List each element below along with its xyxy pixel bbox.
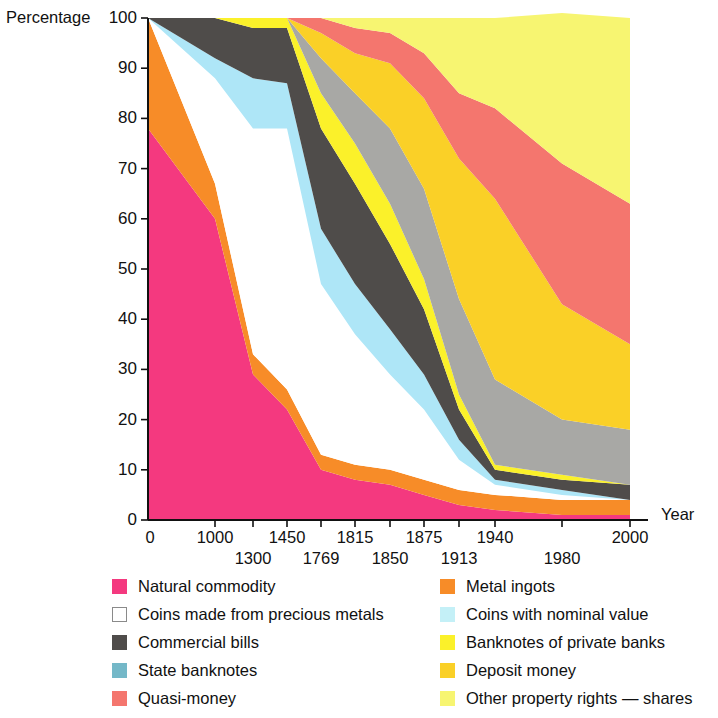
- x-tick-label-1769: 1769: [303, 549, 340, 568]
- plot-svg: [0, 0, 718, 570]
- x-tick-label-1913: 1913: [441, 549, 478, 568]
- x-tick-label-1815: 1815: [337, 528, 374, 547]
- legend-item[interactable]: Commercial bills: [112, 628, 384, 656]
- y-tick-label-20: 20: [97, 410, 137, 430]
- legend-swatch-icon: [112, 635, 127, 650]
- legend-swatch-icon: [112, 663, 127, 678]
- legend-swatch-icon: [440, 607, 455, 622]
- x-tick-label-1850: 1850: [372, 549, 409, 568]
- y-tick-label-10: 10: [97, 460, 137, 480]
- x-tick-label-1980: 1980: [544, 549, 581, 568]
- x-tick-label-2000: 2000: [612, 528, 649, 547]
- chart-plot-area: Percentage Year 1009080706050403020100 1…: [0, 0, 718, 570]
- legend-swatch-icon: [440, 663, 455, 678]
- legend-item[interactable]: Other property rights — shares: [440, 684, 693, 712]
- legend-item-label: Other property rights — shares: [466, 689, 693, 707]
- legend-column-right: Metal ingotsCoins with nominal valueBank…: [440, 572, 693, 712]
- x-tick-label-1300: 1300: [235, 549, 272, 568]
- x-origin-label: 0: [145, 528, 154, 547]
- legend-item-label: Banknotes of private banks: [466, 633, 665, 651]
- legend-swatch-icon: [440, 579, 455, 594]
- legend-item[interactable]: Banknotes of private banks: [440, 628, 693, 656]
- y-tick-label-100: 100: [97, 8, 137, 28]
- legend-item-label: Coins made from precious metals: [138, 605, 384, 623]
- y-tick-label-90: 90: [97, 58, 137, 78]
- legend-item-label: State banknotes: [138, 661, 257, 679]
- legend-item-label: Quasi-money: [138, 689, 236, 707]
- y-tick-label-0: 0: [97, 510, 137, 530]
- y-tick-label-40: 40: [97, 309, 137, 329]
- x-axis-title: Year: [661, 505, 694, 524]
- legend-item-label: Metal ingots: [466, 577, 555, 595]
- y-tick-label-80: 80: [97, 108, 137, 128]
- stacked-area-chart-figure: Percentage Year 1009080706050403020100 1…: [0, 0, 718, 718]
- chart-legend: Natural commodityCoins made from preciou…: [0, 572, 718, 718]
- legend-item[interactable]: State banknotes: [112, 656, 384, 684]
- legend-item[interactable]: Quasi-money: [112, 684, 384, 712]
- x-tick-label-1940: 1940: [477, 528, 514, 547]
- x-tick-label-1000: 1000: [197, 528, 234, 547]
- y-axis-title: Percentage: [6, 8, 90, 27]
- legend-item-label: Commercial bills: [138, 633, 259, 651]
- y-tick-label-60: 60: [97, 209, 137, 229]
- legend-item[interactable]: Metal ingots: [440, 572, 693, 600]
- legend-column-left: Natural commodityCoins made from preciou…: [112, 572, 384, 712]
- legend-item[interactable]: Natural commodity: [112, 572, 384, 600]
- legend-swatch-icon: [440, 691, 455, 706]
- legend-item-label: Coins with nominal value: [466, 605, 649, 623]
- y-tick-label-30: 30: [97, 359, 137, 379]
- y-tick-label-70: 70: [97, 159, 137, 179]
- legend-swatch-icon: [112, 607, 127, 622]
- legend-swatch-icon: [112, 579, 127, 594]
- legend-item-label: Natural commodity: [138, 577, 276, 595]
- legend-item[interactable]: Deposit money: [440, 656, 693, 684]
- x-tick-label-1875: 1875: [406, 528, 443, 547]
- x-tick-label-1450: 1450: [269, 528, 306, 547]
- legend-swatch-icon: [440, 635, 455, 650]
- legend-item-label: Deposit money: [466, 661, 576, 679]
- legend-item[interactable]: Coins with nominal value: [440, 600, 693, 628]
- legend-swatch-icon: [112, 691, 127, 706]
- y-tick-label-50: 50: [97, 259, 137, 279]
- legend-item[interactable]: Coins made from precious metals: [112, 600, 384, 628]
